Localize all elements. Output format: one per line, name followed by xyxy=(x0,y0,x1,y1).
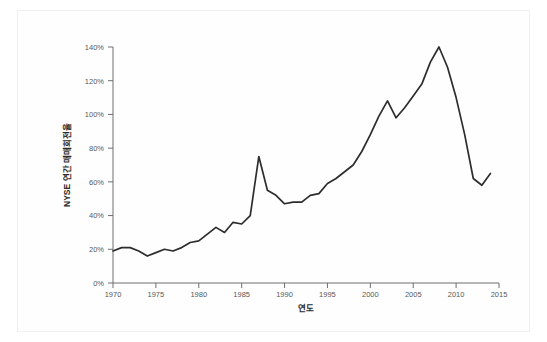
y-tick-label: 100% xyxy=(85,110,105,119)
x-tick-label: 2015 xyxy=(491,290,508,299)
y-axis-title: NYSE 연간 매매회전율 xyxy=(62,123,72,207)
y-tick-label: 140% xyxy=(85,43,105,52)
x-tick-label: 2005 xyxy=(405,290,422,299)
y-tick-label: 20% xyxy=(89,245,104,254)
x-tick-label: 1970 xyxy=(105,290,122,299)
x-tick-label: 2000 xyxy=(362,290,379,299)
x-tick-label: 1990 xyxy=(276,290,293,299)
x-tick-label: 2010 xyxy=(448,290,465,299)
line-chart: 0%20%40%60%80%100%120%140% 1970197519801… xyxy=(0,0,547,342)
y-tick-label: 120% xyxy=(85,77,105,86)
x-tick-label: 1980 xyxy=(190,290,207,299)
y-tick-label: 80% xyxy=(89,144,104,153)
y-tick-label: 60% xyxy=(89,178,104,187)
x-tick-label: 1975 xyxy=(148,290,165,299)
x-tick-label: 1985 xyxy=(233,290,250,299)
x-tick-label: 1995 xyxy=(319,290,336,299)
y-tick-group: 0%20%40%60%80%100%120%140% xyxy=(85,43,113,288)
y-tick-label: 40% xyxy=(89,211,104,220)
x-axis-title: 연도 xyxy=(298,303,314,313)
chart-figure: 0%20%40%60%80%100%120%140% 1970197519801… xyxy=(0,0,547,342)
data-series-line xyxy=(113,47,490,256)
x-tick-group: 1970197519801985199019952000200520102015 xyxy=(105,283,508,299)
y-tick-label: 0% xyxy=(93,279,104,288)
